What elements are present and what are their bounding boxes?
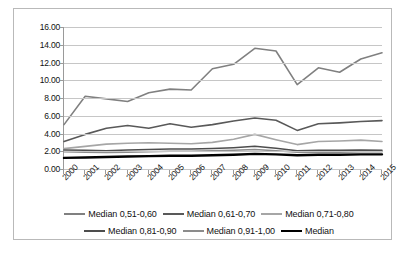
legend-color-swatch (281, 230, 302, 232)
legend-item[interactable]: Median 0,61-0,70 (163, 209, 255, 219)
gridline (64, 98, 382, 99)
legend-color-swatch (163, 213, 184, 215)
legend-color-swatch (84, 230, 105, 232)
y-axis-tickmark (60, 169, 63, 170)
gridline (64, 116, 382, 117)
y-axis-labels: 16.0014.0012.0010.008.006.004.002.000.00 (14, 27, 60, 169)
legend-item[interactable]: Median 0,81-0,90 (84, 226, 176, 236)
series-line (64, 134, 382, 148)
y-axis-tickmark (60, 116, 63, 117)
gridline (64, 63, 382, 64)
chart-legend: Median 0,51-0,60Median 0,61-0,70Median 0… (44, 205, 374, 239)
y-axis-tick-label: 16.00 (40, 22, 60, 32)
gridline (64, 45, 382, 46)
gridline (64, 134, 382, 135)
y-axis-tickmark (60, 45, 63, 46)
y-axis-tickmark (60, 27, 63, 28)
legend-label: Median 0,61-0,70 (187, 209, 255, 219)
y-axis-tick-label: 10.00 (40, 75, 60, 85)
y-axis-tick-label: 2.00 (44, 146, 60, 156)
legend-item[interactable]: Median (281, 226, 334, 236)
y-axis-tickmark (60, 80, 63, 81)
y-axis-tickmark (60, 134, 63, 135)
y-axis-tickmark (60, 63, 63, 64)
chart-frame: 16.0014.0012.0010.008.006.004.002.000.00… (13, 8, 392, 240)
series-line (64, 48, 382, 124)
legend-label: Median 0,81-0,90 (108, 226, 176, 236)
gridline (64, 27, 382, 28)
legend-label: Median (305, 226, 334, 236)
y-axis-tick-label: 0.00 (44, 164, 60, 174)
plot-area (64, 27, 382, 169)
y-axis-tick-label: 12.00 (40, 58, 60, 68)
y-axis-tickmark (60, 98, 63, 99)
y-axis-tick-label: 14.00 (40, 40, 60, 50)
legend-color-swatch (64, 213, 85, 215)
legend-color-swatch (261, 213, 282, 215)
legend-label: Median 0,91-1,00 (207, 226, 275, 236)
legend-label: Median 0,71-0,80 (285, 209, 353, 219)
gridline (64, 151, 382, 152)
y-axis-tickmark (60, 151, 63, 152)
y-axis-tick-label: 6.00 (44, 111, 60, 121)
series-line (64, 118, 382, 142)
legend-row: Median 0,51-0,60Median 0,61-0,70Median 0… (44, 205, 374, 222)
gridline (64, 80, 382, 81)
legend-row: Median 0,81-0,90Median 0,91-1,00Median (44, 222, 374, 239)
legend-item[interactable]: Median 0,51-0,60 (64, 209, 156, 219)
legend-label: Median 0,51-0,60 (88, 209, 156, 219)
legend-item[interactable]: Median 0,71-0,80 (261, 209, 353, 219)
legend-color-swatch (183, 230, 204, 232)
legend-item[interactable]: Median 0,91-1,00 (183, 226, 275, 236)
y-axis-tick-label: 4.00 (44, 129, 60, 139)
y-axis-tick-label: 8.00 (44, 93, 60, 103)
series-line (64, 154, 382, 158)
